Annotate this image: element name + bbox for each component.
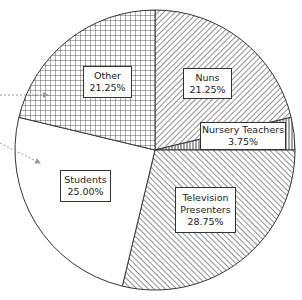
label-nursery-teachers: Nursery Teachers 3.75% (200, 122, 286, 150)
label-students-pct: 25.00% (67, 186, 103, 198)
pie-slices (15, 10, 295, 290)
label-other-pct: 21.25% (89, 82, 125, 94)
label-television-presenters: Television Presenters 28.75% (175, 187, 236, 233)
pie-chart (0, 0, 302, 300)
label-nursery-name: Nursery Teachers (202, 124, 284, 136)
label-nursery-pct: 3.75% (228, 136, 258, 148)
label-other: Other 21.25% (83, 66, 132, 98)
label-students: Students 25.00% (60, 170, 111, 202)
label-other-name: Other (94, 70, 121, 82)
label-nuns-name: Nuns (195, 72, 219, 84)
label-nuns: Nuns 21.25% (183, 68, 232, 99)
label-nuns-pct: 21.25% (189, 84, 225, 96)
label-tv-pct: 28.75% (187, 216, 223, 228)
label-tv-name2: Presenters (180, 204, 230, 216)
label-students-name: Students (64, 174, 106, 186)
label-tv-name1: Television (182, 192, 228, 204)
